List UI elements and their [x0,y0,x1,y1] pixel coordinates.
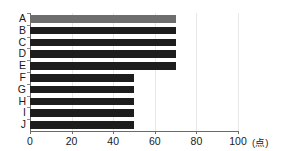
x-tick-label-60: 60 [149,135,161,147]
bar-d [30,50,176,58]
x-tick-label-40: 40 [107,135,119,147]
y-tick [27,37,30,38]
y-tick [27,96,30,97]
x-tick-label-80: 80 [191,135,203,147]
bar-f [30,74,134,82]
bar-e [30,62,176,70]
bar-row [30,107,238,119]
bar-row [30,84,238,96]
bar-row [30,96,238,108]
bar-a [30,15,176,23]
y-tick [27,48,30,49]
bar-g [30,86,134,94]
bar-b [30,27,176,35]
category-label-j: J [0,119,26,131]
unit-label: (点) [252,135,268,149]
gridline-100 [238,13,239,131]
bar-chart: ABCDEFGHIJ 020406080100 (点) [0,0,286,151]
x-tick-40 [113,131,114,134]
y-tick [27,13,30,14]
bar-row [30,72,238,84]
x-tick-80 [196,131,197,134]
y-tick [27,84,30,85]
category-label-g: G [0,84,26,96]
y-tick [27,107,30,108]
bar-c [30,39,176,47]
y-tick [27,60,30,61]
bar-row [30,25,238,37]
x-tick-20 [72,131,73,134]
x-tick-label-20: 20 [66,135,78,147]
bar-row [30,119,238,131]
bar-row [30,48,238,60]
bar-i [30,109,134,117]
bar-h [30,98,134,106]
x-tick-0 [30,131,31,134]
x-tick-label-100: 100 [229,135,247,147]
x-tick-label-0: 0 [27,135,33,147]
bar-row [30,37,238,49]
y-tick [27,72,30,73]
category-label-b: B [0,25,26,37]
y-tick [27,119,30,120]
bar-row [30,13,238,25]
y-tick [27,25,30,26]
x-tick-60 [155,131,156,134]
x-axis-line [30,131,239,132]
bars-group [30,13,238,131]
x-tick-100 [238,131,239,134]
bar-j [30,121,134,129]
bar-row [30,60,238,72]
